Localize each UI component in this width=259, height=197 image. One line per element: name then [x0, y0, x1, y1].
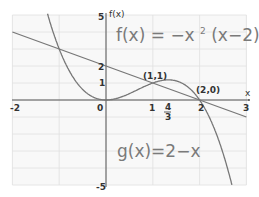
x-tick-3: 3	[243, 103, 249, 113]
point-label-1-1: (1,1)	[143, 71, 167, 81]
equation-g: g(x)=2−x	[117, 141, 200, 161]
equation-f-minus-x: −x	[170, 25, 194, 45]
equation-f-name: f(x)	[116, 25, 145, 45]
y-axis-label: f(x)	[109, 9, 125, 19]
equation-f-factor: (x−2)	[211, 25, 259, 45]
y-tick-2: 2	[98, 62, 104, 72]
x-tick-0: 0	[97, 103, 103, 113]
x-tick-4-3-denominator: 3	[165, 112, 171, 122]
x-axis-label: x	[245, 88, 251, 98]
y-tick-neg5: -5	[96, 182, 106, 192]
x-tick-1: 1	[149, 103, 155, 113]
y-tick-1: 1	[99, 78, 105, 88]
x-tick-neg2: -2	[10, 103, 20, 113]
x-tick-4-3-numerator: 4	[165, 102, 171, 112]
equation-f-exponent: 2	[200, 26, 206, 36]
point-label-2-0: (2,0)	[196, 85, 220, 95]
x-axis-arrow-dot	[248, 99, 250, 101]
x-tick-2: 2	[198, 103, 204, 113]
equation-f-equals: =	[151, 25, 165, 45]
y-tick-5: 5	[98, 12, 104, 22]
function-plot: 5 f(x) 2 1 -5 x -2 0 1 4 3 2 3 (1,1) (2,…	[0, 0, 259, 197]
